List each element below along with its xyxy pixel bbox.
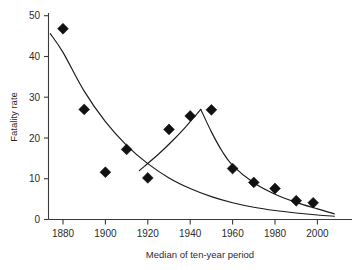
x-axis-title: Median of ten-year period <box>146 249 254 260</box>
y-tick-labels: 0 10 20 30 40 50 <box>29 10 41 225</box>
y-axis-title: Fatality rate <box>8 92 19 142</box>
data-point-marker <box>142 173 153 184</box>
data-point-marker <box>185 111 196 122</box>
x-tick-labels: 1880 1900 1920 1940 1960 1980 2000 <box>52 228 329 239</box>
axes-group <box>49 13 353 220</box>
x-tick-label-1940: 1940 <box>179 228 202 239</box>
x-tick-label-1980: 1980 <box>264 228 287 239</box>
data-point-marker <box>79 104 90 115</box>
y-tick-label-50: 50 <box>29 10 41 21</box>
data-point-marker <box>291 195 302 206</box>
x-tick-label-1880: 1880 <box>52 228 75 239</box>
y-tick-marks <box>44 16 49 220</box>
chart-canvas: 0 10 20 30 40 50 1880 1900 1920 1940 196… <box>0 0 355 270</box>
fitted-curves-group <box>50 34 334 217</box>
x-tick-marks <box>63 220 317 225</box>
x-tick-label-1960: 1960 <box>221 228 244 239</box>
data-point-marker <box>248 177 259 188</box>
y-tick-label-10: 10 <box>29 173 41 184</box>
y-tick-label-20: 20 <box>29 133 41 144</box>
y-tick-label-30: 30 <box>29 92 41 103</box>
data-point-marker <box>121 144 132 155</box>
x-tick-label-2000: 2000 <box>306 228 329 239</box>
data-point-marker <box>100 167 111 178</box>
data-markers-group <box>58 23 319 208</box>
y-tick-label-40: 40 <box>29 51 41 62</box>
x-tick-label-1920: 1920 <box>137 228 160 239</box>
y-tick-label-0: 0 <box>34 214 40 225</box>
data-point-marker <box>164 124 175 135</box>
data-point-marker <box>227 163 238 174</box>
data-point-marker <box>206 104 217 115</box>
fatality-rate-chart: 0 10 20 30 40 50 1880 1900 1920 1940 196… <box>0 0 355 270</box>
x-tick-label-1900: 1900 <box>94 228 117 239</box>
declining-baseline-curve <box>50 34 334 217</box>
data-point-marker <box>58 23 69 34</box>
